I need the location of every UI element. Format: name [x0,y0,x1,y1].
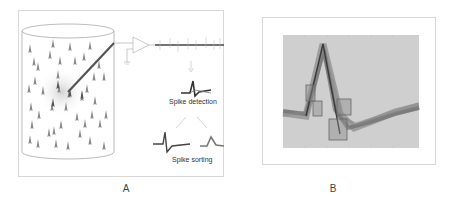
caption-spike-detection: Spike detection [169,98,217,105]
detected-spike [181,81,211,96]
amplifier [114,37,155,64]
arrow-left-branch-icon [176,117,186,128]
panel-label-b: B [323,183,343,194]
waveform-plot [283,35,419,148]
window-1 [306,85,315,101]
recording-region [37,67,87,117]
window-2 [313,101,322,116]
electrode [68,43,114,92]
panel-label-a: A [116,183,136,194]
window-4 [329,119,347,140]
sorted-spike-cluster-2 [200,137,224,146]
window-3 [337,99,351,115]
plot-background [283,35,419,148]
arrow-right-branch-icon [197,117,207,128]
figure-canvas [0,0,450,202]
caption-spike-sorting: Spike sorting [172,156,212,163]
sorted-spike-cluster-1 [153,132,190,152]
raw-signal-trace [155,37,224,52]
